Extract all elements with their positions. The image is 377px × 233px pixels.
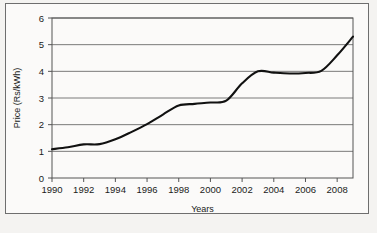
y-tick-label-0: 0 [39,173,44,184]
y-axis-title: Price (Rs/kWh) [12,68,22,129]
y-tick-label-3: 3 [39,93,44,104]
x-tick-label-2006: 2006 [295,184,316,195]
figure-frame: 1990199219941996199820002002200420062008… [5,3,369,214]
y-tick-label-2: 2 [39,119,44,130]
x-axis-ticks [52,178,337,182]
y-tick-label-5: 5 [39,39,44,50]
x-tick-label-1992: 1992 [73,184,94,195]
x-tick-label-1996: 1996 [136,184,157,195]
series-path-price [52,37,353,150]
y-axis-ticks [48,18,52,178]
line-chart: 1990199219941996199820002002200420062008… [6,4,370,215]
y-tick-label-4: 4 [39,66,44,77]
x-tick-label-1990: 1990 [41,184,62,195]
x-axis-title: Years [191,204,214,214]
x-tick-label-2008: 2008 [327,184,348,195]
y-tick-label-1: 1 [39,146,44,157]
x-tick-label-2002: 2002 [232,184,253,195]
x-tick-label-1998: 1998 [168,184,189,195]
x-tick-label-2000: 2000 [200,184,221,195]
x-axis-tick-labels: 1990199219941996199820002002200420062008 [41,184,347,195]
data-series-line [52,37,353,150]
y-tick-label-6: 6 [39,13,44,24]
x-tick-label-2004: 2004 [263,184,284,195]
y-axis-tick-labels: 0123456 [39,13,44,184]
x-tick-label-1994: 1994 [105,184,126,195]
chart-screenshot: 1990199219941996199820002002200420062008… [0,0,377,233]
gridlines [52,18,353,151]
